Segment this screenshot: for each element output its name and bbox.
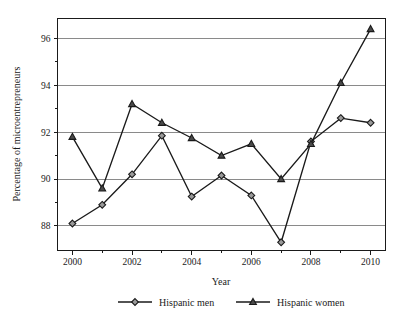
data-point-marker — [69, 133, 76, 139]
y-axis-tick-labels: 8890929496 — [41, 34, 51, 231]
y-tick-label: 88 — [41, 221, 51, 231]
data-point-marker — [248, 140, 255, 146]
y-axis-title: Percentage of microentrepreneurs — [11, 66, 22, 201]
x-axis-title: Year — [212, 276, 231, 287]
x-tick-label: 2000 — [63, 257, 82, 267]
x-tick-label: 2008 — [301, 257, 320, 267]
chart-figure: 8890929496 200020022004200620082010 Year… — [0, 0, 394, 318]
y-tick-label: 96 — [41, 34, 51, 44]
legend-entry-2: Hispanic women — [236, 297, 345, 308]
legend-marker-sample — [132, 299, 139, 306]
x-axis-tick-marks — [72, 251, 370, 255]
x-tick-label: 2004 — [182, 257, 201, 267]
x-tick-label: 2006 — [242, 257, 261, 267]
data-point-marker — [337, 79, 344, 85]
legend-entry-1: Hispanic men — [118, 297, 214, 308]
series-line — [72, 118, 370, 242]
series-line — [72, 29, 370, 188]
x-tick-label: 2002 — [123, 257, 142, 267]
data-point-marker — [367, 25, 374, 31]
series-2 — [69, 25, 374, 190]
chart-legend: Hispanic menHispanic women — [118, 297, 345, 308]
y-axis-tick-marks — [54, 38, 58, 225]
plot-frame — [58, 19, 386, 251]
x-axis-tick-labels: 200020022004200620082010 — [63, 257, 380, 267]
data-point-marker — [99, 185, 106, 191]
data-point-marker — [158, 119, 165, 125]
legend-label: Hispanic men — [159, 297, 214, 308]
data-point-marker — [367, 119, 374, 126]
line-chart: 8890929496 200020022004200620082010 Year… — [0, 0, 394, 318]
y-tick-label: 92 — [41, 128, 51, 138]
y-tick-label: 90 — [41, 174, 51, 184]
gridlines — [58, 38, 386, 225]
data-point-marker — [278, 239, 285, 246]
x-tick-label: 2010 — [361, 257, 380, 267]
data-point-marker — [129, 100, 136, 106]
legend-label: Hispanic women — [277, 297, 345, 308]
series-layer — [69, 25, 374, 245]
y-tick-label: 94 — [41, 81, 51, 91]
